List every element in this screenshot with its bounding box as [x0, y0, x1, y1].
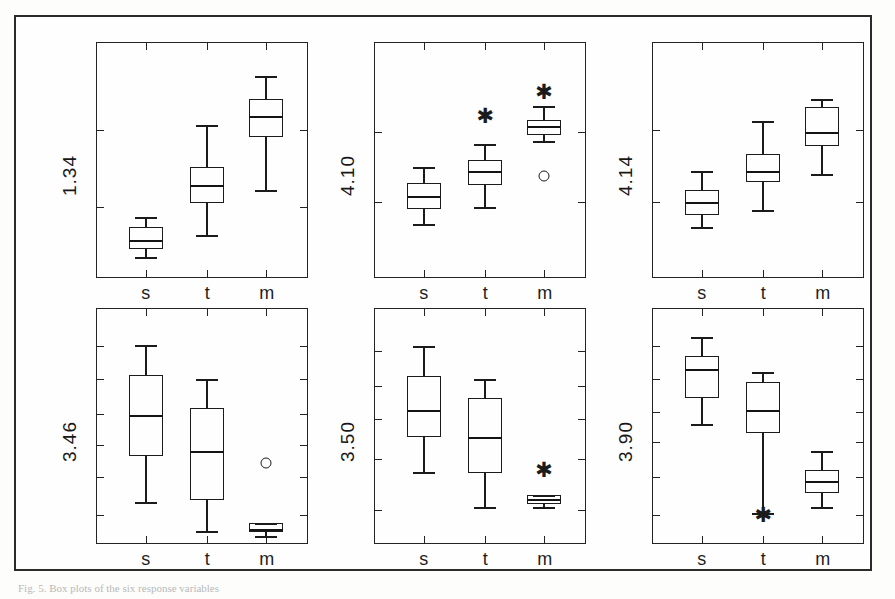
median-line — [746, 410, 780, 412]
whisker-cap-upper — [752, 372, 774, 374]
whisker-cap-lower — [811, 507, 833, 509]
y-axis-label: 3.50 — [337, 421, 359, 462]
y-tick-right-2 — [578, 419, 585, 420]
whisker-cap-upper — [135, 217, 157, 219]
x-axis-label-t: t — [205, 283, 210, 304]
x-tick-bottom-s — [424, 536, 425, 543]
x-tick-top-t — [763, 43, 764, 50]
y-tick-left-1 — [375, 459, 382, 460]
y-tick-right-3 — [300, 414, 307, 415]
panel-grid: 1.34stm4.10✱✱stm4.14stm3.46stm3.50✱stm3.… — [44, 42, 878, 574]
median-line — [129, 240, 163, 242]
y-tick-right-0 — [578, 202, 585, 203]
x-tick-top-t — [485, 309, 486, 316]
y-tick-right-1 — [578, 459, 585, 460]
outlier-star-0: ✱ — [476, 105, 494, 126]
whisker-lower — [762, 182, 764, 210]
whisker-cap-upper — [691, 337, 713, 339]
y-tick-left-1 — [97, 477, 104, 478]
median-line — [685, 369, 719, 371]
whisker-lower — [145, 456, 147, 502]
outlier-circle-0 — [261, 458, 272, 469]
x-tick-top-m — [544, 309, 545, 316]
y-tick-right-2 — [856, 442, 863, 443]
y-tick-left-1 — [97, 130, 104, 131]
iqr-box — [407, 376, 441, 437]
whisker-upper — [423, 167, 425, 183]
whisker-lower — [484, 473, 486, 507]
median-line — [407, 410, 441, 412]
whisker-cap-lower — [811, 174, 833, 176]
x-axis-label-s: s — [419, 549, 428, 570]
iqr-box — [805, 107, 839, 146]
figure-root: 1.34stm4.10✱✱stm4.14stm3.46stm3.50✱stm3.… — [0, 0, 895, 599]
whisker-cap-upper — [752, 121, 774, 123]
y-tick-left-1 — [653, 477, 660, 478]
plot-column: stm — [96, 42, 322, 308]
x-axis-label-s: s — [697, 549, 706, 570]
x-tick-top-s — [146, 309, 147, 316]
y-tick-left-0 — [97, 207, 104, 208]
x-axis-label-t: t — [761, 549, 766, 570]
x-axis-label-s: s — [697, 283, 706, 304]
whisker-cap-lower — [533, 507, 555, 509]
whisker-upper — [484, 379, 486, 398]
whisker-cap-upper — [255, 76, 277, 78]
whisker-lower — [423, 209, 425, 224]
iqr-box — [249, 99, 283, 136]
x-tick-top-m — [822, 309, 823, 316]
y-axis-label: 1.34 — [59, 155, 81, 196]
y-axis-label: 3.46 — [59, 421, 81, 462]
whisker-lower — [701, 215, 703, 227]
iqr-box — [746, 154, 780, 182]
x-tick-bottom-t — [485, 270, 486, 277]
whisker-upper — [821, 451, 823, 471]
y-tick-left-5 — [653, 346, 660, 347]
x-tick-top-t — [763, 309, 764, 316]
x-tick-bottom-t — [763, 536, 764, 543]
y-axis-label-wrap: 3.46 — [44, 308, 96, 574]
y-tick-left-1 — [375, 132, 382, 133]
iqr-box — [468, 398, 502, 473]
boxplot-panel-1: 1.34stm — [44, 42, 322, 308]
y-tick-left-4 — [653, 379, 660, 380]
y-tick-left-4 — [375, 351, 382, 352]
x-axis-labels: stm — [374, 278, 586, 308]
whisker-cap-lower — [255, 190, 277, 192]
x-axis-labels: stm — [96, 278, 308, 308]
y-tick-right-3 — [578, 386, 585, 387]
x-tick-bottom-s — [146, 536, 147, 543]
y-tick-right-0 — [856, 202, 863, 203]
plot-column: stm — [652, 42, 878, 308]
median-line — [527, 499, 561, 501]
outlier-star-0: ✱ — [754, 504, 772, 525]
median-line — [527, 126, 561, 128]
x-tick-bottom-t — [763, 270, 764, 277]
median-line — [190, 185, 224, 187]
whisker-lower — [821, 493, 823, 507]
y-tick-right-2 — [300, 445, 307, 446]
median-line — [805, 132, 839, 134]
whisker-lower — [701, 398, 703, 424]
y-axis-label: 3.90 — [615, 421, 637, 462]
whisker-cap-upper — [811, 451, 833, 453]
y-tick-right-3 — [856, 412, 863, 413]
x-axis-label-t: t — [205, 549, 210, 570]
y-tick-right-1 — [578, 132, 585, 133]
boxplot-panel-4: 3.46stm — [44, 308, 322, 574]
whisker-cap-lower — [196, 531, 218, 533]
x-axis-label-s: s — [141, 549, 150, 570]
x-axis-label-m: m — [537, 283, 552, 304]
plot-column: stm — [96, 308, 322, 574]
y-tick-right-4 — [300, 379, 307, 380]
whisker-lower — [206, 203, 208, 235]
whisker-cap-upper — [196, 125, 218, 127]
whisker-lower — [145, 249, 147, 257]
axes-rect: ✱ — [652, 308, 864, 544]
x-axis-labels: stm — [96, 544, 308, 574]
median-line — [190, 451, 224, 453]
y-tick-right-0 — [578, 510, 585, 511]
plot-column: ✱✱stm — [374, 42, 600, 308]
median-line — [468, 437, 502, 439]
iqr-box — [190, 408, 224, 499]
